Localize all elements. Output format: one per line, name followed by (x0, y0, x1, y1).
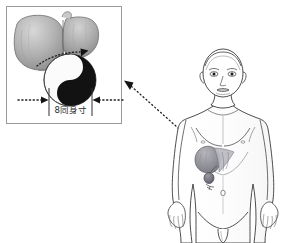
illustration-canvas: 8同身寸 (0, 0, 299, 243)
measurement-label: 8同身寸 (49, 104, 93, 116)
arrow-upleft-icon (124, 81, 134, 91)
yin-yang-symbol (44, 54, 96, 106)
human-body-front-view (168, 49, 278, 243)
anatomy-illustration (0, 0, 299, 243)
